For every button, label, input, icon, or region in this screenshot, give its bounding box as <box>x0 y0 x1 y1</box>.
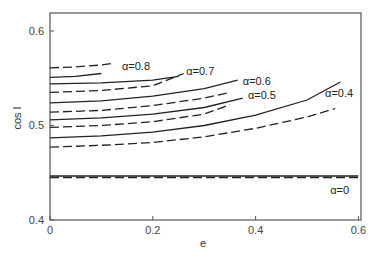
series-group <box>50 63 358 177</box>
series-annotation: α=0.6 <box>243 75 271 87</box>
y-tick-label: 0.5 <box>29 119 44 131</box>
series-annotation: α=0.5 <box>248 89 276 101</box>
y-tick-label: 0.4 <box>29 214 44 226</box>
y-tick-label: 0.6 <box>29 25 44 37</box>
series-line <box>50 63 114 68</box>
series-annotation: α=0.8 <box>122 60 150 72</box>
x-tick-label: 0.4 <box>248 224 263 236</box>
series-annotation: α=0.4 <box>325 87 353 99</box>
x-axis-label: e <box>200 237 206 249</box>
x-tick-label: 0 <box>47 224 53 236</box>
y-axis-label: cos I <box>11 106 23 129</box>
plot-frame <box>50 13 361 220</box>
x-tick-label: 0.2 <box>145 224 160 236</box>
x-tick-label: 0.6 <box>351 224 366 236</box>
chart: 00.20.40.60.40.50.6 α=0.8α=0.7α=0.6α=0.5… <box>0 0 378 257</box>
series-annotation: α=0 <box>330 184 349 196</box>
series-line <box>50 109 335 148</box>
series-line <box>50 74 101 78</box>
plot-area: 00.20.40.60.40.50.6 <box>29 13 366 236</box>
series-annotation: α=0.7 <box>186 65 214 77</box>
